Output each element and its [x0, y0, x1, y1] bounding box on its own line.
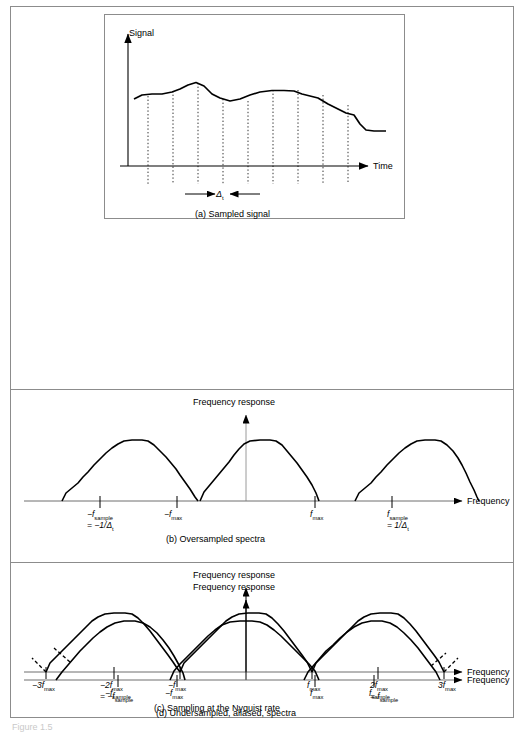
- panel-d-tick-label-neg-fmax: −fmax: [165, 689, 183, 700]
- panel-d-x-axis-label: Frequency: [467, 675, 510, 685]
- panel-a-caption: (a) Sampled signal: [195, 209, 270, 219]
- figure-bottom-caption: Figure 1.5: [12, 722, 53, 732]
- panel-b-oversampled-spectra: Frequency response Frequency −fsample = …: [10, 389, 514, 562]
- panel-b-lobes: [62, 440, 479, 501]
- panel-a-plot: [10, 6, 514, 389]
- panel-d-caption: (d) Undersampled, aliased, spectra: [156, 708, 296, 718]
- panel-b-caption: (b) Oversampled spectra: [166, 534, 265, 544]
- panel-b-tick-label-neg-fsample: −fsample = −1/Δt: [87, 510, 114, 533]
- panel-b-y-axis-label: Frequency response: [193, 397, 275, 407]
- panel-d-tick-label-neg-fsample: −fsample: [105, 689, 131, 700]
- panel-d-lobes: [56, 621, 440, 680]
- panel-a-y-axis-label: Signal: [129, 28, 154, 38]
- panel-d-undersampled-aliased: Frequency response Frequency −fsample −f…: [10, 562, 514, 718]
- panel-b-tick-label-fsample: fsample = 1/Δt: [387, 510, 409, 533]
- panel-d-tick-label-fsample: fsample: [369, 689, 390, 700]
- panel-a-interval-label: Δt: [216, 189, 224, 201]
- panel-d-alias-dashes: [54, 648, 446, 666]
- panel-b-x-axis-label: Frequency: [467, 496, 510, 506]
- figure-page: Signal Time Δt (a) Sampled signal Freque…: [0, 0, 522, 735]
- panel-b-tick-label-neg-fmax: −fmax: [164, 510, 182, 521]
- panel-d-tick-label-fmax: fmax: [310, 689, 323, 700]
- panel-d-y-axis-label: Frequency response: [193, 582, 275, 592]
- panel-a-x-axis-label: Time: [373, 161, 393, 171]
- panel-b-tick-label-fmax: fmax: [310, 510, 323, 521]
- panel-a-sampled-signal: Signal Time Δt (a) Sampled signal: [10, 6, 514, 389]
